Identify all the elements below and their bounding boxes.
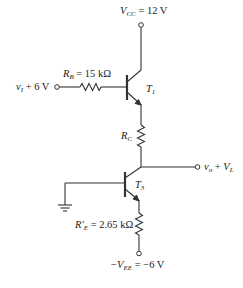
input-terminal: [55, 85, 60, 90]
rb-resistor: [80, 84, 101, 91]
rc-resistor: [138, 125, 145, 147]
t1-label: T1: [146, 84, 155, 96]
output-terminal: [195, 165, 200, 170]
vcc-label: VCC = 12 V: [120, 6, 167, 18]
circuit-schematic: [0, 0, 243, 288]
t3-label: T3: [135, 180, 144, 192]
ground-icon: [58, 205, 72, 211]
vee-terminal: [137, 251, 142, 256]
output-label: vo + VL: [204, 162, 234, 174]
re-label: R′E = 2.65 kΩ: [75, 220, 133, 232]
re-resistor: [136, 213, 143, 235]
rb-label: RB = 15 kΩ: [63, 69, 111, 81]
rc-label: RC: [121, 131, 132, 143]
input-label: vI + 6 V: [16, 82, 49, 94]
vee-label: −VEE = −6 V: [110, 260, 164, 272]
vcc-terminal: [139, 23, 144, 28]
transistor-t1: [127, 70, 141, 105]
